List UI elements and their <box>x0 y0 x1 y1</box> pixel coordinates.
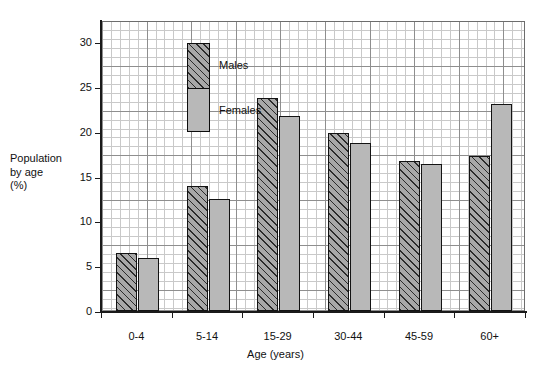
y-axis-title-line-1: Population <box>10 152 98 166</box>
x-tick-label: 45-59 <box>384 331 454 342</box>
x-tick-mark <box>101 313 102 318</box>
bar-60plus-females <box>491 104 512 311</box>
x-tick-label: 0-4 <box>101 331 171 342</box>
y-tick-label: 25 <box>58 82 92 93</box>
y-tick-label: 5 <box>58 261 92 272</box>
x-tick-mark <box>384 313 385 318</box>
bar-30-44-males <box>328 133 349 311</box>
y-tick-label: 30 <box>58 37 92 48</box>
bar-15-29-males <box>257 98 278 311</box>
x-tick-mark <box>172 313 173 318</box>
bar-0-4-males <box>116 253 137 311</box>
x-tick-label: 60+ <box>455 331 525 342</box>
y-tick-mark <box>95 222 100 223</box>
y-tick-label: 0 <box>58 306 92 317</box>
x-tick-label: 30-44 <box>313 331 383 342</box>
y-axis-line <box>100 20 102 313</box>
legend-swatch-males <box>188 44 209 89</box>
bar-5-14-males <box>187 186 208 312</box>
y-tick-mark <box>95 43 100 44</box>
bar-0-4-females <box>138 258 159 311</box>
population-by-age-bar-chart: 051015202530 0-45-1415-2930-4445-5960+ P… <box>0 0 551 371</box>
plot-area <box>101 21 525 312</box>
x-tick-mark <box>313 313 314 318</box>
legend-label-males: Males <box>219 60 248 71</box>
y-axis-title: Population by age (%) <box>10 152 98 193</box>
y-tick-mark <box>95 267 100 268</box>
legend-label-females: Females <box>219 105 261 116</box>
y-tick-mark <box>95 133 100 134</box>
x-tick-mark <box>242 313 243 318</box>
y-tick-label: 20 <box>58 127 92 138</box>
y-axis-title-line-2: by age <box>10 166 98 180</box>
x-tick-label: 5-14 <box>172 331 242 342</box>
bar-5-14-females <box>209 199 230 311</box>
bar-60plus-males <box>469 156 490 311</box>
bar-30-44-females <box>350 143 371 311</box>
y-tick-mark <box>95 312 100 313</box>
legend-swatch-females <box>188 89 209 131</box>
bar-45-59-males <box>399 161 420 311</box>
x-tick-mark <box>525 313 526 318</box>
x-tick-label: 15-29 <box>243 331 313 342</box>
y-axis-title-line-3: (%) <box>10 179 98 193</box>
y-tick-label: 10 <box>58 216 92 227</box>
legend-key-box <box>187 43 210 132</box>
bar-15-29-females <box>279 116 300 311</box>
x-tick-mark <box>454 313 455 318</box>
bar-45-59-females <box>421 164 442 311</box>
x-axis-title: Age (years) <box>0 348 551 360</box>
y-tick-mark <box>95 88 100 89</box>
